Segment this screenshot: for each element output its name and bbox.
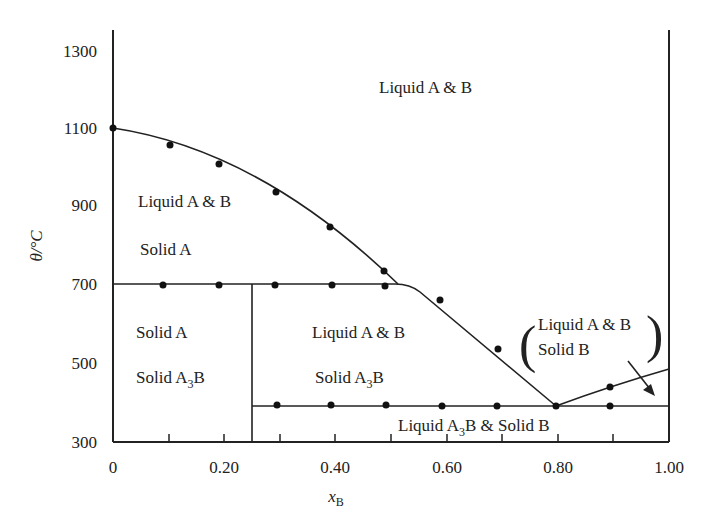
phase-diagram: 0 0.20 0.40 0.60 0.80 1.00 300 500 700 9… [0,0,715,525]
svg-text:0.60: 0.60 [432,458,462,477]
svg-text:Solid B: Solid B [538,340,590,359]
svg-text:0.20: 0.20 [209,458,239,477]
region-labels: Liquid A & B Liquid A & B Solid A Solid … [136,78,631,439]
svg-text:1.00: 1.00 [654,458,684,477]
svg-text:Solid A3B: Solid A3B [315,368,384,391]
svg-text:1100: 1100 [64,119,97,138]
svg-text:Liquid A3B & Solid B: Liquid A3B & Solid B [398,416,549,439]
svg-text:900: 900 [72,196,98,215]
svg-text:Liquid A & B: Liquid A & B [379,78,472,97]
svg-text:Liquid A & B: Liquid A & B [538,315,631,334]
svg-text:0.80: 0.80 [543,458,573,477]
arrow-head-icon [643,384,655,396]
svg-text:Liquid A & B: Liquid A & B [312,323,405,342]
svg-text:0.40: 0.40 [320,458,350,477]
svg-text:500: 500 [72,354,98,373]
x-axis-label: xB [327,487,344,509]
svg-text:0: 0 [109,458,118,477]
data-points [110,125,614,410]
svg-text:Solid A: Solid A [140,240,192,259]
svg-text:700: 700 [72,275,98,294]
x-tick-labels: 0 0.20 0.40 0.60 0.80 1.00 [109,458,684,477]
left-paren: ( [519,316,536,374]
y-tick-labels: 300 500 700 900 1100 1300 [63,42,97,452]
svg-text:Solid A3B: Solid A3B [136,368,205,391]
svg-text:1300: 1300 [63,42,97,61]
svg-text:Liquid A & B: Liquid A & B [138,192,231,211]
x-ticks [169,434,613,442]
svg-text:300: 300 [72,433,98,452]
svg-text:Solid A: Solid A [136,323,188,342]
y-axis-label: θ/°C [27,230,46,262]
liquidus-a3b [113,284,556,406]
phase-boundaries [113,128,669,442]
right-paren: ) [646,306,663,364]
